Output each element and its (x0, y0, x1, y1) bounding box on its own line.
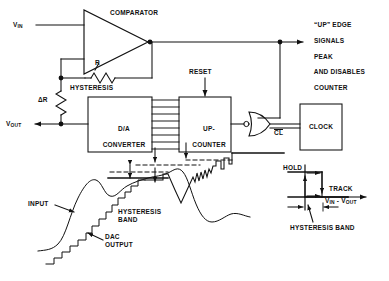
resistor-r-label: R (95, 59, 100, 67)
input-leader (55, 205, 74, 212)
clock-block-label: CLOCK (300, 123, 342, 131)
resistor-delta-r-label: ΔR (38, 96, 48, 104)
comparator-symbol (36, 10, 148, 78)
waveform-hysteresis-band-label: HYSTERESISBAND (118, 208, 161, 224)
counter-block-label: UP- COUNTER (179, 117, 231, 157)
vin-label: VIN (13, 21, 23, 29)
data-bus (152, 100, 179, 149)
hysteresis-transfer-plot (288, 165, 366, 222)
input-trace-label: INPUT (28, 200, 49, 208)
clock-cl-pin-label: CL (274, 129, 283, 137)
up-edge-annotation: “UP” EDGE SIGNALS PEAK AND DISABLES COUN… (306, 13, 365, 100)
band-leader (308, 205, 313, 222)
transfer-axis-label: VIN - VOUT (325, 197, 357, 205)
dac-block-label: D/A CONVERTER (88, 117, 152, 157)
hysteresis-caption: HYSTERESIS (70, 84, 113, 92)
hold-label: HOLD (283, 164, 302, 172)
resistor-delta-r-symbol (56, 78, 66, 124)
vout-label: VOUT (6, 120, 21, 128)
reset-label: RESET (189, 68, 212, 76)
comparator-label: COMPARATOR (110, 9, 158, 17)
tracking-waveform-plot (38, 143, 284, 264)
track-label: TRACK (329, 185, 353, 193)
figure-canvas: VIN COMPARATOR R HYSTERESIS ΔR VOUT D/A … (0, 0, 389, 281)
transfer-hysteresis-band-label: HYSTERESIS BAND (290, 224, 355, 232)
junction-dot-hyst (59, 76, 64, 81)
dac-leader (88, 233, 103, 240)
dac-output-trace-label: DACOUTPUT (105, 233, 133, 249)
